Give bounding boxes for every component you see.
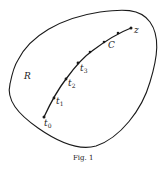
curve-label: C	[108, 40, 115, 50]
point-t2	[65, 78, 68, 81]
point-pre-z	[117, 32, 120, 35]
point-t1	[53, 97, 56, 100]
label-t1: t1	[56, 96, 63, 107]
point-c	[103, 41, 106, 44]
point-z	[130, 27, 133, 30]
figure: R C z t0 t1 t2 t3 Fig. 1	[0, 0, 167, 173]
label-t3: t3	[80, 63, 88, 74]
label-t2: t2	[68, 78, 76, 89]
point-mid	[89, 51, 92, 54]
figure-caption: Fig. 1	[73, 154, 93, 162]
label-t0: t0	[44, 118, 52, 129]
diagram-canvas: R C z t0 t1 t2 t3 Fig. 1	[0, 0, 167, 173]
endpoint-label: z	[133, 25, 139, 35]
region-label: R	[23, 71, 31, 81]
point-t3	[77, 62, 80, 65]
